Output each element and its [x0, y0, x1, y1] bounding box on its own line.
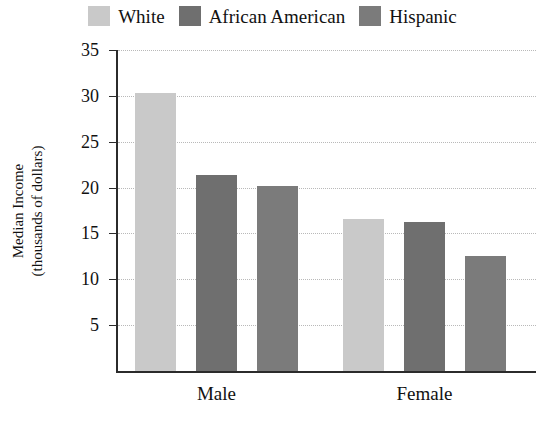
gridline-15 [118, 233, 536, 234]
x-axis-label-male: Male [157, 384, 277, 403]
y-tick-label-35: 35 [59, 41, 99, 59]
x-axis-line [116, 371, 536, 373]
y-tick-35 [109, 50, 118, 51]
legend-item-hispanic: Hispanic [359, 6, 457, 26]
y-tick-label-15: 15 [59, 224, 99, 242]
legend-item-white: White [88, 6, 164, 26]
gridline-20 [118, 188, 536, 189]
y-tick-label-20: 20 [59, 179, 99, 197]
legend-label-african-american: African American [209, 7, 346, 26]
y-tick-5 [109, 325, 118, 326]
legend-swatch-hispanic [359, 6, 381, 26]
y-tick-20 [109, 188, 118, 189]
y-axis-title: Median Income (thousands of dollars) [0, 46, 56, 376]
plot-area [116, 50, 536, 373]
y-tick-15 [109, 233, 118, 234]
bar-chart: White African American Hispanic Median I… [0, 0, 545, 421]
legend-swatch-white [88, 6, 110, 26]
y-tick-30 [109, 96, 118, 97]
bar-male-african-american [196, 175, 237, 371]
legend-label-white: White [118, 7, 164, 26]
bar-male-white [135, 93, 176, 371]
bar-female-white [343, 219, 384, 371]
y-tick-10 [109, 279, 118, 280]
y-tick-label-5: 5 [59, 316, 99, 334]
y-axis-title-line1: Median Income [10, 164, 26, 259]
bar-female-african-american [404, 222, 445, 371]
legend-swatch-african-american [179, 6, 201, 26]
bar-male-hispanic [257, 186, 298, 371]
legend-item-african-american: African American [179, 6, 346, 26]
gridline-35 [118, 50, 536, 51]
gridline-30 [118, 96, 536, 97]
y-tick-label-25: 25 [59, 133, 99, 151]
legend-label-hispanic: Hispanic [389, 7, 457, 26]
y-tick-label-10: 10 [59, 270, 99, 288]
gridline-25 [118, 142, 536, 143]
chart-legend: White African American Hispanic [0, 6, 545, 26]
y-tick-label-30: 30 [59, 87, 99, 105]
bar-female-hispanic [465, 256, 506, 371]
y-axis-title-line2: (thousands of dollars) [28, 146, 47, 277]
y-tick-25 [109, 142, 118, 143]
x-axis-label-female: Female [365, 384, 485, 403]
